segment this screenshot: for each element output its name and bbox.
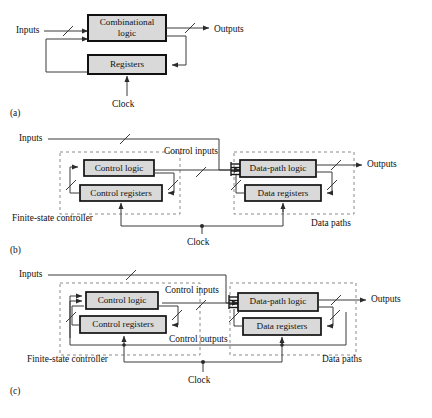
- clock-junction-dot: [201, 360, 205, 364]
- panel-a-output-wire: [166, 23, 209, 33]
- clock-junction-dot: [200, 224, 204, 228]
- panel-a-feedback-wire: [46, 39, 88, 72]
- block-label: Data-path logic: [250, 163, 307, 173]
- clock-tap-dot: [122, 343, 126, 347]
- block-combinational-logic: Combinational logic: [88, 15, 166, 41]
- label-control-inputs: Control inputs: [165, 285, 219, 295]
- label-clock: Clock: [188, 375, 211, 385]
- figure-canvas: Combinational logic Registers: [0, 0, 432, 418]
- label-data-paths: Data paths: [322, 354, 362, 364]
- block-control-logic: Control logic: [84, 160, 154, 176]
- panel-a-reg-input-wire: [166, 36, 186, 65]
- bus-slash-icon: [172, 310, 182, 320]
- panel-b: Control logic Control registers Data-pat…: [10, 133, 397, 256]
- clock-tap-dot: [280, 343, 284, 347]
- block-control-registers: Control registers: [80, 316, 166, 333]
- block-label: Control registers: [92, 319, 154, 329]
- block-data-registers: Data registers: [245, 185, 321, 201]
- panel-letter-a: (a): [10, 108, 20, 119]
- label-outputs: Outputs: [371, 294, 401, 304]
- block-label: Data registers: [258, 188, 309, 198]
- label-control-inputs: Control inputs: [164, 146, 218, 156]
- sequential-circuit-figure: Combinational logic Registers: [0, 0, 432, 418]
- block-label: Control registers: [90, 188, 152, 198]
- panel-b-clock-wire: [121, 203, 283, 234]
- block-control-logic: Control logic: [86, 292, 158, 309]
- panel-c-output-wire: [318, 295, 366, 305]
- bus-slash-icon: [196, 167, 206, 177]
- block-data-path-logic: Data-path logic: [240, 160, 316, 177]
- block-label: Data registers: [257, 321, 308, 331]
- block-data-registers: Data registers: [243, 318, 321, 335]
- block-label: Control logic: [95, 163, 144, 173]
- label-finite-state-controller: Finite-state controller: [27, 354, 109, 364]
- block-data-path-logic: Data-path logic: [238, 293, 318, 311]
- bus-slash-icon: [66, 312, 76, 322]
- panel-b-control-inputs-wire: [154, 162, 240, 177]
- label-data-paths: Data paths: [311, 218, 351, 228]
- panel-c: Control logic Control registers Data-pat…: [10, 269, 401, 397]
- panel-letter-c: (c): [10, 386, 20, 397]
- block-label: Control logic: [98, 295, 147, 305]
- label-finite-state-controller: Finite-state controller: [12, 213, 94, 223]
- label-inputs: Inputs: [19, 133, 43, 143]
- bus-slash-icon: [330, 310, 340, 320]
- panel-letter-b: (b): [10, 245, 21, 256]
- label-inputs: Inputs: [16, 25, 40, 35]
- panel-b-control-loop-left: [66, 167, 80, 193]
- block-registers: Registers: [88, 55, 166, 74]
- panel-b-output-wire: [316, 160, 362, 170]
- panel-a-input-wire: [44, 26, 88, 36]
- block-label: Registers: [110, 59, 145, 69]
- label-control-outputs: Control outputs: [169, 334, 228, 344]
- label-inputs: Inputs: [19, 269, 43, 279]
- label-clock: Clock: [112, 99, 135, 109]
- bus-slash-icon: [196, 300, 206, 310]
- block-control-registers: Control registers: [80, 185, 162, 201]
- label-outputs: Outputs: [214, 24, 244, 34]
- bus-slash-icon: [66, 180, 76, 190]
- bus-slash-icon: [168, 180, 178, 190]
- panel-a: Combinational logic Registers: [10, 15, 244, 119]
- block-label: Data-path logic: [250, 296, 307, 306]
- label-clock: Clock: [187, 237, 210, 247]
- label-outputs: Outputs: [367, 159, 397, 169]
- block-label-line2: logic: [118, 28, 136, 38]
- block-label: Combinational: [100, 17, 155, 27]
